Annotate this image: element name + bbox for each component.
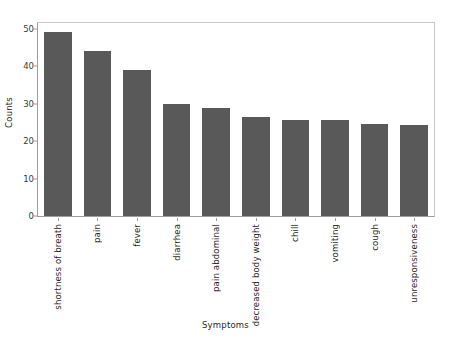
x-axis-tick-label: chill [290,224,300,242]
bar-slot [196,23,236,216]
bar-slot [236,23,276,216]
bar-slot [394,23,434,216]
y-axis-tick-mark [33,66,37,67]
bar[interactable] [321,120,349,216]
x-axis-label-slot: decreased body weight [236,218,276,308]
x-axis-tick-mark [58,218,59,221]
x-axis-label-slot: pain [78,218,118,308]
x-axis-tick-mark [97,218,98,221]
bar-slot [38,23,78,216]
bar[interactable] [242,117,270,216]
bar-slot [355,23,395,216]
bar[interactable] [282,120,310,216]
x-axis-label-slot: vomiting [315,218,355,308]
x-axis-label-slot: fever [117,218,157,308]
x-axis-tick-label: pain abdominal [211,224,221,292]
x-axis-label-slot: unresponsiveness [394,218,434,308]
y-axis-tick-mark [33,216,37,217]
bar[interactable] [361,124,389,216]
bar-slot [157,23,197,216]
x-axis-label-slot: shortness of breath [38,218,78,308]
x-axis-tick-mark [177,218,178,221]
y-axis-title: Counts [4,97,14,128]
x-axis-tick-label: pain [92,224,102,243]
x-axis-tick-mark [295,218,296,221]
bar[interactable] [202,108,230,216]
bars-container [38,23,434,216]
x-axis-tick-mark [335,218,336,221]
x-axis-tick-mark [414,218,415,221]
y-axis-tick-mark [33,141,37,142]
x-axis-tick-label: cough [370,224,380,251]
y-axis-tick-mark [33,28,37,29]
x-axis-label-slot: pain abdominal [196,218,236,308]
x-axis: shortness of breathpainfeverdiarrheapain… [38,218,434,308]
bar[interactable] [123,70,151,216]
x-axis-tick-label: fever [132,224,142,247]
x-axis-tick-label: shortness of breath [53,224,63,310]
bar-chart-figure: 01020304050 Counts shortness of breathpa… [0,0,451,342]
x-axis-tick-label: diarrhea [172,224,182,261]
x-axis-label-slot: diarrhea [157,218,197,308]
x-axis-title: Symptoms [0,320,451,330]
bar-slot [117,23,157,216]
x-axis-label-slot: cough [355,218,395,308]
y-axis-tick-mark [33,178,37,179]
bar[interactable] [163,104,191,216]
x-axis-label-slot: chill [276,218,316,308]
x-axis-tick-label: decreased body weight [251,224,261,326]
x-axis-tick-label: unresponsiveness [409,224,419,303]
bar-slot [276,23,316,216]
bar-slot [315,23,355,216]
bar[interactable] [400,125,428,216]
y-axis: 01020304050 [0,0,40,342]
x-axis-tick-mark [375,218,376,221]
x-axis-tick-mark [256,218,257,221]
bar[interactable] [84,51,112,216]
x-axis-tick-mark [216,218,217,221]
y-axis-tick-mark [33,103,37,104]
x-axis-tick-mark [137,218,138,221]
bar[interactable] [44,32,72,216]
bar-slot [78,23,118,216]
x-axis-tick-label: vomiting [330,224,340,263]
